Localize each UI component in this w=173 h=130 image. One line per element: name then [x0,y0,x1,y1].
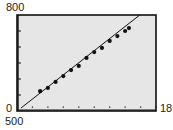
data-point [92,50,96,54]
data-point [54,80,58,84]
x-tick [94,107,95,108]
scatter-plot [0,0,173,130]
x-tick [140,107,141,108]
data-point [46,86,50,90]
x-tick [78,107,79,108]
x-tick [63,107,64,108]
x-tick [47,107,48,108]
data-point [69,68,73,72]
x-tick [125,107,126,108]
data-point [38,89,42,93]
x-tick [32,107,33,108]
data-point [123,29,127,33]
plot-frame [17,15,156,111]
x-tick [155,107,156,108]
data-point [100,46,104,50]
data-point [84,56,88,60]
data-point [61,74,65,78]
x-tick [109,107,110,108]
data-point [108,39,112,43]
data-point [77,64,81,68]
data-point [127,26,131,30]
data-point [115,34,119,38]
